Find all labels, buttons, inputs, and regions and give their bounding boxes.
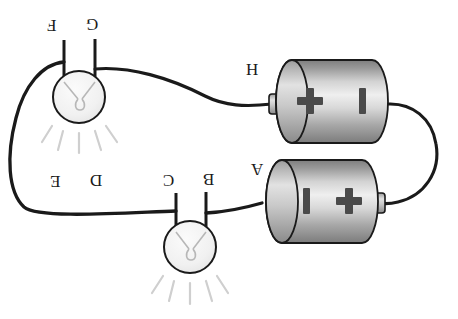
battery-bottom-left-cap [266,160,298,243]
circuit-diagram: F G H A E D C B [0,0,458,319]
label-d: D [90,172,102,189]
bulb-bottom[interactable] [152,192,228,304]
battery-top-minus-symbol [359,88,366,114]
wire-bulb-bottom-to-battery-a [206,203,262,213]
label-e: E [50,173,60,190]
label-c: C [163,172,174,189]
bulb-top-light-rays [42,126,117,153]
bulb-top-glass [53,71,105,123]
label-b: B [203,171,214,188]
battery-top[interactable] [269,60,388,143]
label-h: H [246,61,258,78]
bulb-bottom-glass [164,221,216,273]
label-f: F [47,17,56,34]
label-a: A [251,161,263,178]
bulb-top[interactable] [42,39,117,153]
bulb-bottom-light-rays [152,276,228,304]
circuit-svg [0,0,458,319]
battery-bottom[interactable] [266,160,385,243]
label-g: G [86,16,98,33]
battery-bottom-minus-symbol [303,188,310,214]
